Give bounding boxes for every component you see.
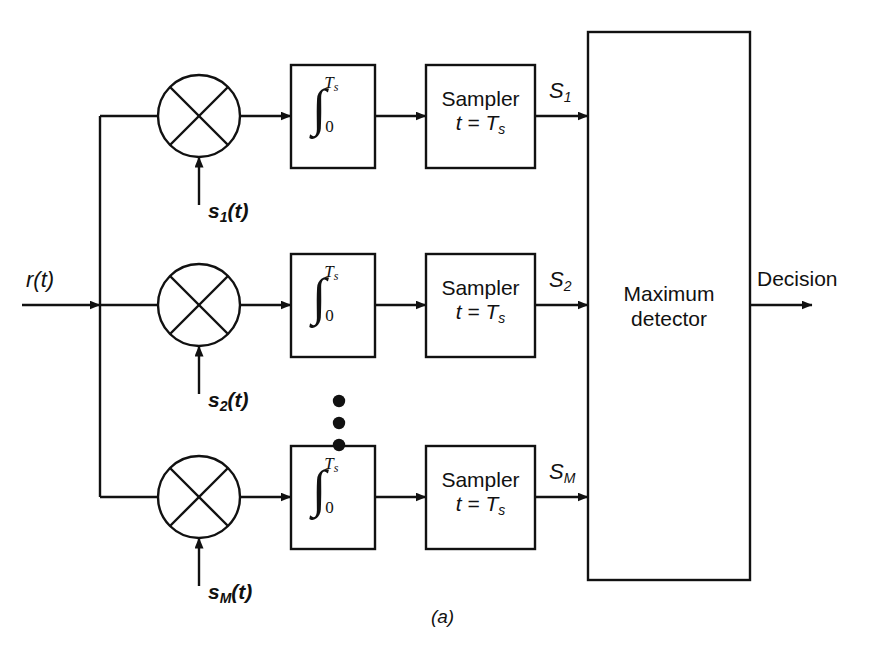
sampler-title-branch-M: Sampler <box>441 468 519 491</box>
vertical-ellipsis <box>325 393 353 457</box>
reference-signal-tail-branch-2: (t) <box>227 388 248 411</box>
output-label-branch-1: S1 <box>549 79 571 105</box>
integral-upper-limit-branch-1: Ts <box>324 73 338 95</box>
input-label-rt: r(t) <box>26 268 54 291</box>
reference-signal-tail-branch-1: (t) <box>227 199 248 222</box>
integral-upper-limit-branch-2: Ts <box>324 262 338 284</box>
reference-signal-base-branch-2: s <box>208 388 220 411</box>
decision-output-label: Decision <box>757 268 838 290</box>
reference-signal-label-branch-1: s1(t) <box>208 200 248 225</box>
output-label-branch-2: S2 <box>549 268 571 294</box>
integral-lower-limit-branch-M: 0 <box>325 498 339 518</box>
sampler-title-branch-1: Sampler <box>441 87 519 110</box>
maximum-detector-line2: detector <box>631 307 707 330</box>
reference-signal-base-branch-M: s <box>208 580 220 603</box>
integrator-expression-branch-1: ∫ Ts 0 <box>312 82 340 134</box>
reference-signal-tail-branch-M: (t) <box>231 580 252 603</box>
sampler-text-branch-2: Sampler t = Ts <box>426 277 535 326</box>
sampler-condition-branch-M: t = Ts <box>426 493 535 518</box>
maximum-detector-label: Maximum detector <box>588 282 750 332</box>
maximum-detector-line1: Maximum <box>623 282 714 305</box>
integrator-expression-branch-M: ∫ Ts 0 <box>312 463 340 515</box>
integral-upper-limit-branch-M: Ts <box>324 454 338 476</box>
sampler-text-branch-1: Sampler t = Ts <box>426 88 535 137</box>
figure-caption: (a) <box>0 606 885 628</box>
sampler-condition-branch-2: t = Ts <box>426 301 535 326</box>
sampler-text-branch-M: Sampler t = Ts <box>426 469 535 518</box>
sampler-condition-branch-1: t = Ts <box>426 112 535 137</box>
reference-signal-sub-branch-M: M <box>220 590 232 606</box>
integrator-expression-branch-2: ∫ Ts 0 <box>312 271 340 323</box>
reference-signal-label-branch-2: s2(t) <box>208 389 248 414</box>
reference-signal-base-branch-1: s <box>208 199 220 222</box>
reference-signal-label-branch-M: sM(t) <box>208 581 252 606</box>
output-label-branch-M: SM <box>549 460 575 486</box>
figure-correlator-receiver-block-diagram: r(t) s1(t) s2(t) sM(t) ∫ Ts 0 ∫ Ts 0 ∫ T… <box>0 0 885 672</box>
integral-lower-limit-branch-2: 0 <box>325 306 339 326</box>
integral-lower-limit-branch-1: 0 <box>325 117 339 137</box>
sampler-title-branch-2: Sampler <box>441 276 519 299</box>
